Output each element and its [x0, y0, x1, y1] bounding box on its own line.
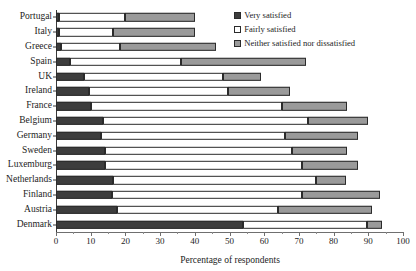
x-tick-mark [91, 232, 92, 236]
bar-segment-neither [302, 191, 380, 199]
bar-segment-neither [278, 206, 372, 214]
bar-segment-fairly [101, 132, 285, 140]
y-axis-label-france: France [26, 101, 52, 111]
x-minor-tick-mark [351, 232, 352, 234]
x-minor-tick-mark [108, 232, 109, 234]
x-tick-mark [195, 232, 196, 236]
stacked-bar [56, 220, 382, 228]
x-tick-label: 0 [54, 237, 59, 246]
y-axis-label-austria: Austria [24, 205, 52, 215]
x-minor-tick-mark [212, 232, 213, 234]
bar-segment-neither [285, 132, 358, 140]
y-axis-label-ireland: Ireland [25, 87, 52, 97]
stacked-bar [56, 102, 347, 110]
y-axis-label-sweden: Sweden [22, 146, 52, 156]
x-tick-label: 60 [260, 237, 269, 246]
x-minor-tick-mark [247, 232, 248, 234]
bar-segment-very [56, 58, 70, 66]
bar-segment-neither [282, 102, 348, 110]
stacked-bar [56, 28, 195, 36]
bar-segment-very [56, 132, 101, 140]
x-minor-tick-mark [73, 232, 74, 234]
x-tick-mark [264, 232, 265, 236]
y-axis-label-netherlands: Netherlands [6, 175, 52, 185]
legend-swatch-neither-icon [234, 40, 241, 47]
x-minor-tick-mark [282, 232, 283, 234]
bar-segment-neither [223, 72, 261, 80]
bar-row: Finland [56, 188, 403, 203]
x-minor-tick-mark [177, 232, 178, 234]
y-axis-label-luxemburg: Luxemburg [8, 161, 52, 171]
bar-segment-very [56, 102, 91, 110]
stacked-bar [56, 206, 372, 214]
bar-segment-fairly [70, 58, 181, 66]
legend-label: Neither satisfied nor dissatisfied [244, 39, 355, 48]
x-tick-mark [160, 232, 161, 236]
x-tick-label: 30 [156, 237, 165, 246]
bar-segment-very [56, 220, 243, 228]
x-tick-mark [368, 232, 369, 236]
bar-segment-very [56, 206, 117, 214]
bar-segment-very [56, 146, 105, 154]
bar-segment-very [56, 117, 103, 125]
y-axis-label-spain: Spain [30, 57, 52, 67]
bar-segment-fairly [105, 161, 303, 169]
stacked-bar [56, 13, 195, 21]
y-axis-label-germany: Germany [17, 131, 52, 141]
x-minor-tick-mark [386, 232, 387, 234]
stacked-bar [56, 161, 358, 169]
bar-row: Spain [56, 54, 403, 69]
x-tick-mark [230, 232, 231, 236]
stacked-bar [56, 87, 290, 95]
bar-row: Sweden [56, 143, 403, 158]
x-tick-label: 90 [364, 237, 373, 246]
x-tick-label: 20 [121, 237, 130, 246]
bar-segment-very [56, 161, 105, 169]
x-minor-tick-mark [143, 232, 144, 234]
bar-segment-neither [125, 13, 194, 21]
x-tick-mark [403, 232, 404, 236]
bar-row: Austria [56, 202, 403, 217]
y-axis-label-finland: Finland [23, 190, 52, 200]
bar-segment-fairly [112, 191, 303, 199]
x-tick-mark [299, 232, 300, 236]
bar-segment-neither [367, 220, 383, 228]
bar-row: Denmark [56, 217, 403, 232]
y-axis-label-portugal: Portugal [20, 13, 52, 23]
bar-segment-neither [113, 28, 195, 36]
x-tick-label: 50 [225, 237, 234, 246]
stacked-bar [56, 72, 261, 80]
bar-segment-fairly [59, 13, 125, 21]
stacked-bar [56, 43, 216, 51]
bar-segment-fairly [59, 28, 113, 36]
bar-row: UK [56, 69, 403, 84]
bar-segment-neither [316, 176, 345, 184]
bar-segment-very [56, 191, 112, 199]
stacked-bar [56, 58, 306, 66]
bar-segment-neither [228, 87, 290, 95]
x-axis-title: Percentage of respondents [0, 255, 416, 265]
bar-segment-very [56, 176, 113, 184]
y-axis-label-denmark: Denmark [17, 220, 52, 230]
bar-segment-neither [181, 58, 306, 66]
bar-segment-neither [120, 43, 215, 51]
bar-segment-neither [292, 146, 348, 154]
x-axis-title-text: Percentage of respondents [180, 255, 280, 265]
bar-segment-neither [308, 117, 369, 125]
bar-row: Luxemburg [56, 158, 403, 173]
stacked-bar [56, 117, 368, 125]
legend-swatch-fairly-icon [234, 26, 241, 33]
x-tick-label: 100 [396, 237, 410, 246]
stacked-bar [56, 191, 380, 199]
bar-segment-fairly [113, 176, 316, 184]
bar-segment-very [56, 72, 84, 80]
x-tick-mark [125, 232, 126, 236]
bar-segment-fairly [117, 206, 278, 214]
x-tick-label: 40 [190, 237, 199, 246]
x-tick-label: 10 [86, 237, 95, 246]
bar-row: Netherlands [56, 173, 403, 188]
bar-segment-fairly [243, 220, 366, 228]
legend-item-neither: Neither satisfied nor dissatisfied [234, 39, 355, 48]
bar-segment-fairly [84, 72, 223, 80]
bar-segment-very [56, 87, 89, 95]
